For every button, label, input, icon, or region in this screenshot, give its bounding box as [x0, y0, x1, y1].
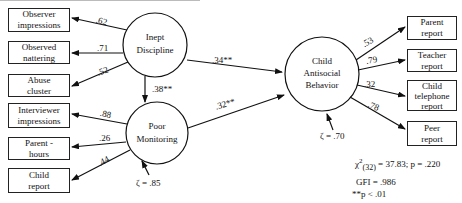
indicator-interviewer-impressions: Interviewerimpressions	[8, 103, 70, 128]
box-label: telephone	[415, 91, 450, 101]
indicator-peer-report: Peerreport	[407, 121, 457, 146]
box-label: report	[421, 28, 444, 39]
box-label: report	[421, 134, 443, 145]
indicator-observed-nattering: Observednattering	[8, 41, 70, 64]
latent-label: Monitoring	[125, 133, 189, 146]
box-label: Observed	[22, 42, 57, 53]
indicator-parent-report: Parentreport	[407, 16, 457, 40]
latent-label: Discipline	[123, 44, 187, 57]
path-discipline-antisocial: .34**	[212, 55, 232, 65]
chi-subscript: (32)	[363, 163, 376, 172]
box-label: impressions	[17, 116, 60, 127]
latent-inept-discipline: Inept Discipline	[123, 31, 187, 57]
chi-square-stat: χ2(32) = 37.83; p = .220	[355, 157, 440, 172]
box-label: Child	[28, 170, 50, 181]
loading-teacher-report: .79	[365, 54, 378, 66]
box-label: Parent -	[25, 138, 53, 149]
indicator-child-telephone-report: Childtelephonereport	[407, 80, 457, 111]
latent-child-antisocial-behavior: Child Antisocial Behavior	[288, 55, 356, 91]
box-label: Teacher	[418, 50, 446, 61]
loading-parent-hours: .26	[99, 133, 110, 143]
box-label: Abuse	[27, 75, 51, 86]
loading-observed-nattering: .71	[97, 43, 108, 53]
latent-label: Inept	[123, 31, 187, 44]
box-label: hours	[25, 149, 53, 160]
box-label: cluster	[27, 86, 51, 97]
latent-label: Child	[288, 55, 356, 67]
indicator-abuse-cluster: Abusecluster	[8, 74, 70, 97]
loading-child-telephone-report: .32	[364, 79, 375, 89]
latent-label: Poor	[125, 120, 189, 133]
box-label: Observer	[17, 9, 60, 20]
box-label: impressions	[17, 20, 60, 31]
box-label: report	[28, 181, 50, 192]
latent-label: Antisocial	[288, 67, 356, 79]
zeta-child-antisocial: ζ = .70	[320, 131, 345, 141]
indicator-teacher-report: Teacherreport	[407, 49, 457, 72]
indicator-child-report: Childreport	[8, 168, 70, 193]
latent-poor-monitoring: Poor Monitoring	[125, 120, 189, 146]
box-label: Peer	[421, 123, 443, 134]
box-label: Parent	[421, 17, 444, 28]
indicator-parent-hours: Parent -hours	[8, 137, 70, 160]
chi-value: = 37.83; p = .220	[378, 159, 440, 169]
indicator-observer-impressions: Observerimpressions	[8, 8, 70, 32]
box-label: report	[415, 101, 450, 111]
box-label: Child	[415, 81, 450, 91]
latent-label: Behavior	[288, 79, 356, 91]
loading-interviewer-impressions: .88	[99, 108, 112, 120]
gfi-stat: GFI = .986	[356, 177, 396, 187]
box-label: nattering	[22, 53, 57, 64]
box-label: Interviewer	[17, 105, 60, 116]
significance-note: **p < .01	[352, 189, 386, 199]
zeta-poor-monitoring: ζ = .85	[136, 178, 161, 188]
path-discipline-monitoring: .38**	[152, 84, 172, 94]
box-label: report	[418, 61, 446, 72]
